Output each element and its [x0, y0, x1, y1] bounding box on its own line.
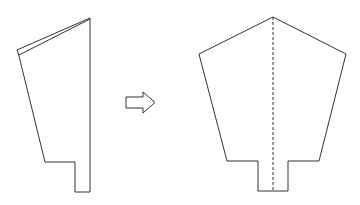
diagram-canvas — [0, 0, 360, 205]
folded-shape — [17, 18, 90, 192]
folded-flap-edge — [19, 19, 90, 55]
right-arrow-icon — [126, 92, 155, 113]
folded-shape-outline — [17, 18, 90, 192]
unfolded-shape — [199, 17, 346, 191]
diagram-svg — [0, 0, 360, 205]
